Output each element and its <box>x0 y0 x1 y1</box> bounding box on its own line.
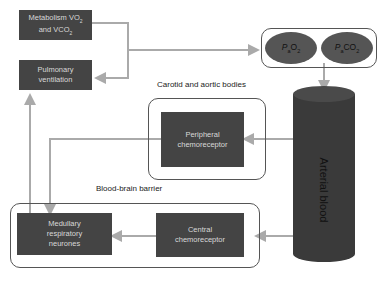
medullary-neurones-box: Medullaryrespiratoryneurones <box>17 213 112 255</box>
blood-brain-barrier-label: Blood-brain barrier <box>96 184 162 193</box>
pao2-label: PaO2 <box>282 42 300 54</box>
cylinder-top <box>293 86 355 102</box>
central-label: Centralchemoreceptor <box>175 225 225 245</box>
peripheral-label: Peripheralchemoreceptor <box>177 130 227 150</box>
pulmonary-ventilation-box: Pulmonaryventilation <box>19 60 92 90</box>
central-chemoreceptor-box: Centralchemoreceptor <box>156 213 244 257</box>
carotid-aortic-label: Carotid and aortic bodies <box>157 80 246 89</box>
metabolism-box: Metabolism VO2and VCO2 <box>19 10 92 40</box>
paco2-ellipse: PaCO2 <box>321 32 373 64</box>
paco2-label: PaCO2 <box>335 42 360 54</box>
pulmonary-label: Pulmonaryventilation <box>38 65 74 85</box>
pao2-ellipse: PaO2 <box>265 32 317 64</box>
medullary-label: Medullaryrespiratoryneurones <box>47 219 82 249</box>
peripheral-chemoreceptor-box: Peripheralchemoreceptor <box>161 112 244 167</box>
metabolism-label: Metabolism VO2and VCO2 <box>28 13 82 38</box>
arterial-blood-label: Arterial blood <box>318 158 330 223</box>
